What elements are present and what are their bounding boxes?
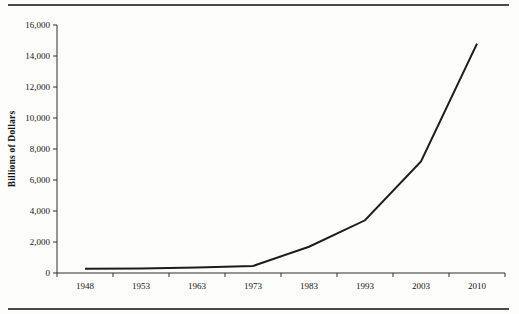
y-tick-label: 8,000 (30, 144, 51, 154)
y-tick-label: 12,000 (25, 82, 50, 92)
x-tick-label: 1948 (76, 281, 95, 291)
top-rule (8, 4, 509, 6)
y-tick-label: 14,000 (25, 51, 50, 61)
x-tick-label: 1963 (188, 281, 207, 291)
y-tick-label: 2,000 (30, 237, 51, 247)
y-tick-label: 0 (46, 268, 51, 278)
x-tick-label: 1973 (244, 281, 263, 291)
bottom-rule (8, 308, 509, 310)
chart-figure: Billions of Dollars 02,0004,0006,0008,00… (0, 0, 519, 314)
plot-area: 02,0004,0006,0008,00010,00012,00014,0001… (25, 20, 505, 291)
y-tick-label: 10,000 (25, 113, 50, 123)
x-tick-label: 1983 (300, 281, 319, 291)
x-tick-label: 2010 (468, 281, 487, 291)
data-line (85, 44, 477, 269)
x-tick-label: 2003 (412, 281, 431, 291)
y-tick-label: 6,000 (30, 175, 51, 185)
line-chart: Billions of Dollars 02,0004,0006,0008,00… (0, 0, 519, 314)
y-axis-title: Billions of Dollars (7, 111, 17, 188)
y-tick-label: 16,000 (25, 20, 50, 30)
x-tick-label: 1953 (132, 281, 151, 291)
x-tick-label: 1993 (356, 281, 375, 291)
y-tick-label: 4,000 (30, 206, 51, 216)
